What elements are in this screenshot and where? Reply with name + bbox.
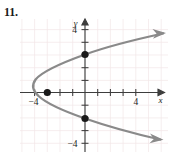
x-tick-label-neg4: −4 [28,97,38,107]
exercise-number: 11. [4,5,18,20]
curve-arrowhead-upper [153,29,167,39]
grid-lines [20,19,168,152]
y-axis-arrowhead [82,19,88,25]
y-tick-label-neg4: −4 [67,139,77,149]
graph-svg: y x −4 4 4 −4 [0,0,170,154]
x-axis-label: x [158,95,163,105]
point-x-intercept [44,89,51,96]
point-y-intercept-upper [81,51,88,58]
y-tick-label-pos4: 4 [72,25,77,35]
point-y-intercept-lower [81,115,88,122]
x-tick-label-pos4: 4 [133,97,138,107]
figure-container: 11. [0,0,170,154]
parabola-curve [33,29,166,143]
